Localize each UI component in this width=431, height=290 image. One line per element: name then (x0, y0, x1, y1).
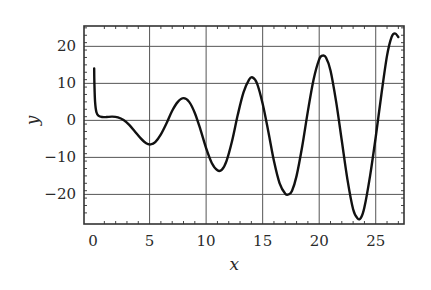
x-tick-label: 0 (88, 232, 98, 250)
y-tick-labels: 20100−10−20 (44, 37, 76, 203)
y-tick-label: −20 (44, 185, 76, 203)
data-series-line (94, 33, 398, 219)
y-tick-label: −10 (44, 148, 76, 166)
x-axis-label: x (230, 254, 240, 274)
y-tick-label: 0 (66, 111, 76, 129)
x-tick-label: 25 (366, 232, 385, 250)
y-axis-label: y (22, 115, 42, 126)
line-chart: 0510152025 20100−10−20 x y (0, 0, 431, 290)
y-tick-label: 10 (57, 74, 76, 92)
grid-lines (84, 26, 404, 224)
x-tick-labels: 0510152025 (88, 232, 385, 250)
x-tick-label: 5 (145, 232, 155, 250)
x-tick-label: 15 (253, 232, 272, 250)
y-tick-label: 20 (57, 37, 76, 55)
x-tick-label: 20 (310, 232, 329, 250)
x-tick-label: 10 (197, 232, 216, 250)
